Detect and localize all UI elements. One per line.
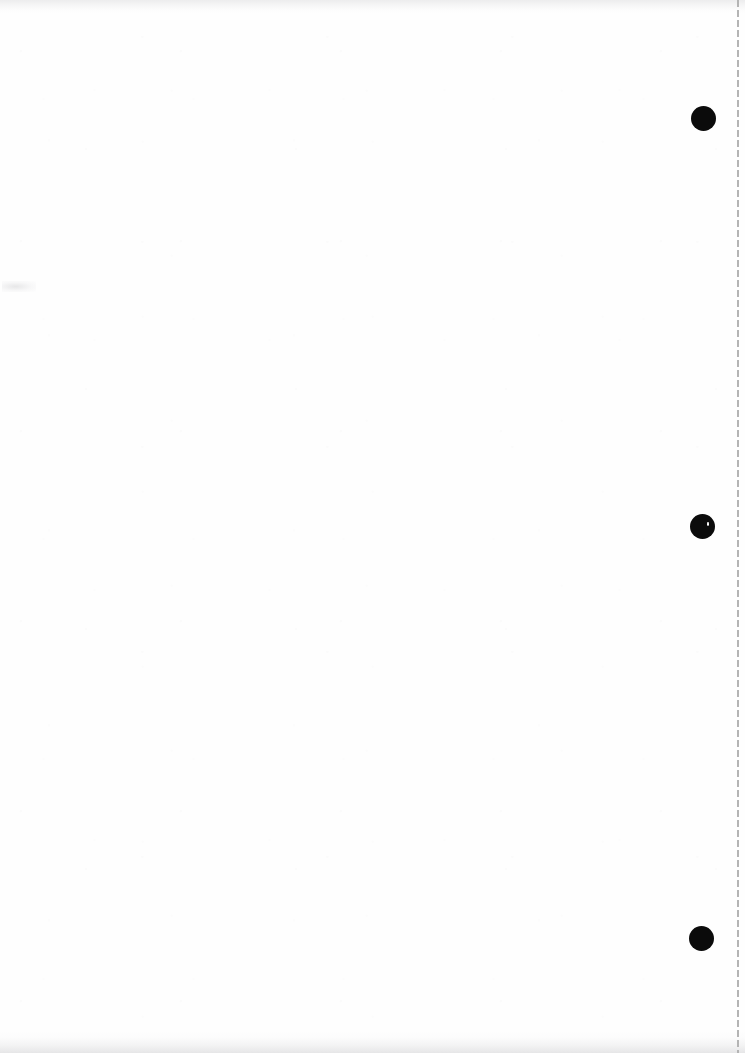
binding-mark-middle (690, 514, 715, 539)
perforation-line (737, 0, 739, 1053)
binding-mark-bottom (689, 926, 714, 951)
page-body-blank (40, 40, 660, 1000)
stray-scan-mark-left (2, 281, 36, 292)
scanned-page (0, 0, 745, 1053)
bottom-edge-shadow (0, 1031, 745, 1053)
top-edge-shadow (0, 0, 745, 14)
scan-speck (707, 522, 710, 526)
binding-mark-top (691, 106, 716, 131)
